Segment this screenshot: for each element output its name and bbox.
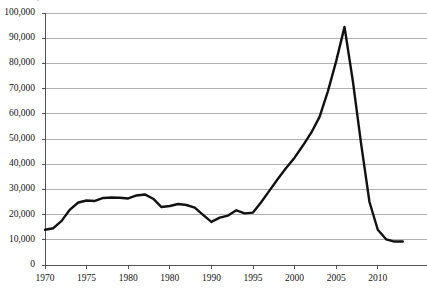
x-axis-tick-label: 1980 [119,274,138,284]
x-axis-tick-label: 1975 [77,274,96,284]
line-chart: · 010,00020,00030,00040,00050,00060,0007… [0,0,427,289]
x-axis-tick-label: 1970 [36,274,55,284]
x-axis-tick-label: 2000 [285,274,304,284]
x-axis-tick-labels: 197019751980198019901995200020052010 [0,0,427,289]
x-axis-tick-label: 1980 [160,274,179,284]
x-axis-tick-label: 2010 [368,274,387,284]
x-axis-tick-label: 1995 [244,274,263,284]
x-axis-tick-label: 1990 [202,274,221,284]
x-axis-tick-label: 2005 [327,274,346,284]
